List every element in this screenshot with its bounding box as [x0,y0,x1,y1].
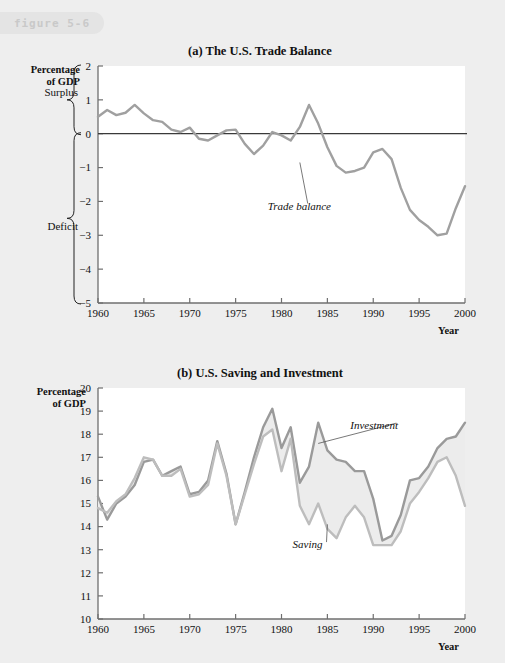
y-tick-label: 0 [86,128,92,140]
panel-b-plot: 1011121314151617181920196019651970197519… [0,366,505,663]
y-tick-label: 1 [86,94,92,106]
x-tick-label: 1965 [133,623,156,635]
x-tick-label: 2000 [454,307,477,319]
x-tick-label: 1965 [133,307,156,319]
y-tick-label: 15 [80,497,92,509]
x-tick-label: 1960 [87,307,110,319]
panel-b-x-axis-title: Year [438,641,459,652]
panel-b-y-axis-title: Percentage of GDP [18,386,86,410]
y-tick-label: −2 [79,195,91,207]
x-tick-label: 1970 [179,307,202,319]
brace-deficit [67,133,81,304]
x-tick-label: 1985 [316,307,339,319]
x-tick-label: 1960 [87,623,110,635]
plot-background [98,66,465,303]
annotation-label: Saving [293,538,323,550]
panel-saving-investment: (b) U.S. Saving and Investment Percentag… [0,366,505,663]
x-tick-label: 2000 [454,623,477,635]
panel-a-title: (a) The U.S. Trade Balance [60,44,460,59]
x-tick-label: 1975 [225,307,248,319]
x-tick-label: 1995 [408,307,431,319]
panel-a-brace-label-surplus: Surplus [8,86,78,98]
y-tick-label: 13 [80,544,92,556]
x-tick-label: 1990 [362,623,385,635]
x-tick-label: 1980 [271,307,294,319]
y-tick-label: 18 [80,428,92,440]
figure-number-tab: figure 5-6 [0,12,104,34]
panel-trade-balance: (a) The U.S. Trade Balance Percentage of… [0,44,505,354]
y-tick-label: 2 [86,60,92,72]
x-tick-label: 1975 [225,623,248,635]
panel-a-y-axis-title: Percentage of GDP [12,64,80,88]
annotation-label: Trade balance [268,200,331,212]
y-tick-label: 17 [80,451,92,463]
y-tick-label: 12 [80,567,91,579]
x-tick-label: 1985 [316,623,339,635]
panel-b-title: (b) U.S. Saving and Investment [60,366,460,381]
y-tick-label: −4 [79,263,91,275]
y-tick-label: −1 [79,161,91,173]
x-tick-label: 1980 [271,623,294,635]
figure-number-label: figure 5-6 [14,17,90,30]
y-tick-label: 16 [80,474,92,486]
y-tick-label: 14 [80,520,92,532]
annotation-label: Investment [349,419,399,431]
y-tick-label: 11 [80,590,91,602]
panel-a-x-axis-title: Year [438,325,459,336]
x-tick-label: 1995 [408,623,431,635]
x-tick-label: 1970 [179,623,202,635]
x-tick-label: 1990 [362,307,385,319]
y-tick-label: −3 [79,229,91,241]
panel-a-brace-label-deficit: Deficit [8,220,78,232]
